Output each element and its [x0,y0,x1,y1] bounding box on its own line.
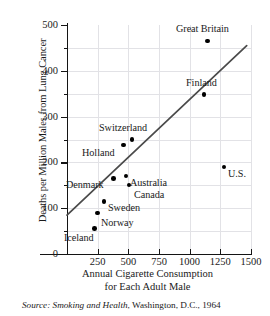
gridline-horizontal [67,140,251,141]
data-label-switzerland: Switzerland [99,122,147,133]
x-axis-title-line-2: for Each Adult Male [40,281,255,294]
data-label-canada: Canada [134,189,164,200]
scatter-plot-figure: Deaths per Million Males from Lung Cance… [0,0,270,316]
data-point-norway[interactable] [95,211,100,216]
gridline-horizontal [67,117,251,118]
gridline-horizontal [67,94,251,95]
gridline-horizontal [67,208,251,209]
source-prefix: Source: [22,300,50,310]
x-tick-750 [159,249,160,255]
y-tick-label-200: 200 [28,156,58,167]
data-label-denmark: Denmark [66,179,104,190]
gridline-horizontal [67,48,251,49]
data-point-finland[interactable] [202,92,207,97]
y-tick-label-0: 0 [28,248,58,259]
x-tick-1000 [190,249,191,255]
x-tick-1500 [251,249,252,255]
gridline-horizontal [67,162,251,163]
y-tick-minor-250 [64,140,69,141]
x-tick-500 [128,249,129,255]
y-tick-label-500: 500 [28,19,58,30]
data-label-finland: Finland [186,77,217,88]
source-rest: , Washington, D.C., 1964 [128,300,221,310]
data-label-iceland: Iceland [64,232,94,243]
plot-area [67,25,251,254]
data-label-great-britain: Great Britain [176,23,229,34]
y-tick-minor-350 [64,94,69,95]
x-tick-250 [98,249,99,255]
y-tick-label-400: 400 [28,65,58,76]
y-axis-title: Deaths per Million Males from Lung Cance… [37,11,48,251]
y-tick-500 [61,25,68,26]
y-tick-minor-450 [64,48,69,49]
y-tick-100 [61,208,68,209]
x-tick-1250 [220,249,221,255]
y-tick-400 [61,71,68,72]
x-axis-title-line-1: Annual Cigarette Consumption [40,268,255,281]
data-point-holland[interactable] [121,143,126,148]
x-tick-label-1500: 1500 [231,256,270,267]
x-axis-title: Annual Cigarette Consumption for Each Ad… [40,268,255,293]
source-title: Smoking and Health [53,300,128,310]
gridline-vertical [251,25,252,254]
y-tick-300 [61,117,68,118]
y-tick-label-100: 100 [28,202,58,213]
data-label-australia: Australia [130,177,167,188]
source-caption: Source: Smoking and Health, Washington, … [22,300,221,310]
y-tick-200 [61,162,68,163]
gridline-horizontal [67,231,251,232]
data-point-sweden[interactable] [102,199,107,204]
gridline-horizontal [67,71,251,72]
data-label-sweden: Sweden [108,202,140,213]
data-label-us: U.S. [228,168,246,179]
data-point-denmark[interactable] [111,176,116,181]
y-tick-label-300: 300 [28,111,58,122]
data-label-holland: Holland [82,147,114,158]
data-label-norway: Norway [101,217,134,228]
data-point-switzerland[interactable] [130,137,135,142]
data-point-iceland[interactable] [92,226,97,231]
data-point-great-britain[interactable] [205,39,210,44]
